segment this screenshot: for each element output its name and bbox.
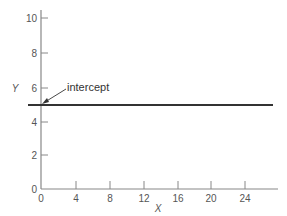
y-axis-label: Y — [12, 83, 20, 94]
y-tick-label: 6 — [31, 83, 37, 94]
x-tick-label: 16 — [172, 193, 184, 204]
x-tick-label: 12 — [138, 193, 150, 204]
arrow-head-icon — [42, 98, 49, 104]
x-axis-label: X — [154, 203, 162, 214]
intercept-annotation: intercept — [42, 81, 109, 104]
x-ticks: 0 4 8 12 16 20 24 — [38, 181, 251, 204]
x-tick-label: 8 — [107, 193, 113, 204]
y-tick-label: 0 — [31, 184, 37, 195]
y-tick-label: 10 — [26, 13, 38, 24]
y-tick-label: 4 — [31, 117, 37, 128]
x-tick-label: 24 — [239, 193, 251, 204]
x-tick-label: 0 — [38, 193, 44, 204]
x-tick-label: 4 — [73, 193, 79, 204]
y-tick-label: 2 — [31, 150, 37, 161]
chart: 10 8 6 4 2 0 0 4 8 12 16 20 24 Y X inter… — [0, 0, 287, 216]
y-tick-label: 8 — [31, 48, 37, 59]
intercept-label: intercept — [67, 81, 109, 93]
x-tick-label: 20 — [205, 193, 217, 204]
